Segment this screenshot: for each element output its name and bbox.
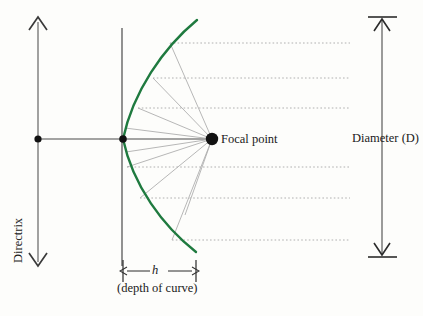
reflected-ray (172, 139, 212, 240)
diagram-canvas: Focal point Diameter (D) h (depth of cur… (0, 0, 423, 316)
focal-point-dot (206, 133, 218, 145)
directrix-point-dot (34, 135, 41, 142)
reflected-ray (170, 43, 212, 139)
depth-measure (123, 260, 196, 282)
parabolic-reflector-diagram (0, 0, 423, 316)
reflected-ray-group (125, 43, 212, 240)
reflected-ray (127, 139, 212, 167)
diameter-label: Diameter (D) (352, 132, 419, 145)
depth-symbol-label: h (152, 264, 158, 277)
directrix-label: Directrix (12, 218, 25, 263)
focal-point-label: Focal point (221, 133, 278, 146)
depth-caption-label: (depth of curve) (117, 282, 198, 295)
vertex-point-dot (119, 135, 127, 143)
